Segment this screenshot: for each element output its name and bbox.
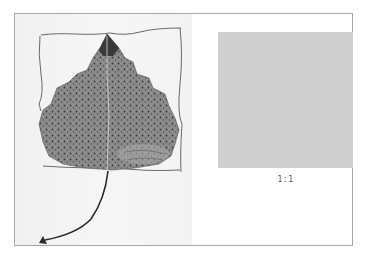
leaf-illustration	[15, 14, 192, 245]
leaf-photo	[15, 14, 192, 245]
ratio-swatch	[218, 32, 353, 168]
ratio-label: 1:1	[218, 175, 353, 184]
